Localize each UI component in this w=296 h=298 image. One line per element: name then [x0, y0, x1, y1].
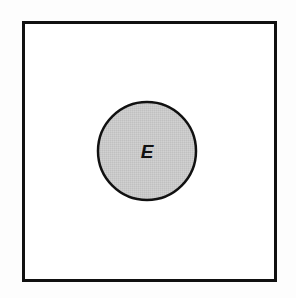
venn-diagram-svg: E — [0, 0, 296, 298]
figure-canvas: E — [0, 0, 296, 298]
event-label-E: E — [141, 141, 155, 162]
